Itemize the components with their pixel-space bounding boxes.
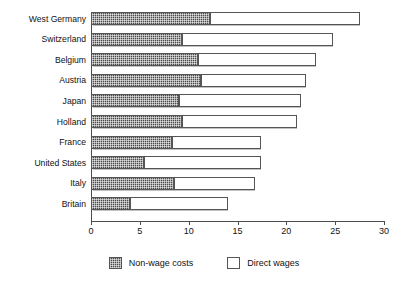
bar-segment-direct-wages xyxy=(182,33,333,46)
bar-segment-non-wage-costs xyxy=(91,136,172,149)
bar-row xyxy=(91,177,255,190)
bar-segment-non-wage-costs xyxy=(91,33,182,46)
x-axis-tick-label: 0 xyxy=(79,226,103,237)
y-axis-label: Japan xyxy=(0,96,86,106)
legend-item-direct-wages: Direct wages xyxy=(227,257,299,269)
bar-segment-non-wage-costs xyxy=(91,197,130,210)
bar-segment-direct-wages xyxy=(130,197,228,210)
bar-segment-direct-wages xyxy=(198,53,315,66)
x-axis-tick-label: 25 xyxy=(323,226,347,237)
x-axis-tick-label: 30 xyxy=(372,226,396,237)
bar-segment-non-wage-costs xyxy=(91,12,210,25)
legend-item-non-wage-costs: Non-wage costs xyxy=(109,257,194,269)
x-axis-tick xyxy=(335,221,336,225)
legend-swatch-direct-wages xyxy=(227,257,240,269)
x-axis-tick xyxy=(286,221,287,225)
bar-row xyxy=(91,94,301,107)
bar-segment-non-wage-costs xyxy=(91,177,174,190)
y-axis-label: Italy xyxy=(0,178,86,188)
bar-segment-direct-wages xyxy=(210,12,359,25)
x-axis-tick xyxy=(140,221,141,225)
y-axis-label: Belgium xyxy=(0,55,86,65)
bar-segment-non-wage-costs xyxy=(91,156,144,169)
bar-segment-direct-wages xyxy=(172,136,261,149)
y-axis-label: West Germany xyxy=(0,14,86,24)
x-axis-tick xyxy=(91,221,92,225)
bar-segment-non-wage-costs xyxy=(91,115,182,128)
bar-segment-direct-wages xyxy=(182,115,297,128)
y-axis-category-labels: West GermanySwitzerlandBelgiumAustriaJap… xyxy=(0,12,86,218)
bar-row xyxy=(91,115,297,128)
bar-segment-direct-wages xyxy=(201,74,306,87)
bar-segment-non-wage-costs xyxy=(91,94,179,107)
bar-row xyxy=(91,136,261,149)
legend-label-direct-wages: Direct wages xyxy=(247,258,299,269)
x-axis-tick xyxy=(189,221,190,225)
bar-segment-non-wage-costs xyxy=(91,74,201,87)
bar-segment-direct-wages xyxy=(174,177,255,190)
x-axis-tick-label: 15 xyxy=(226,226,250,237)
bar-row xyxy=(91,156,261,169)
bar-row xyxy=(91,74,306,87)
legend-swatch-non-wage-costs xyxy=(109,257,122,269)
bar-row xyxy=(91,12,360,25)
bar-row xyxy=(91,53,316,66)
y-axis-label: Austria xyxy=(0,75,86,85)
bar-segment-non-wage-costs xyxy=(91,53,198,66)
y-axis-label: United States xyxy=(0,158,86,168)
x-axis-tick xyxy=(384,221,385,225)
stacked-bar-chart: West GermanySwitzerlandBelgiumAustriaJap… xyxy=(0,0,408,284)
bar-row xyxy=(91,197,228,210)
bar-segment-direct-wages xyxy=(144,156,261,169)
y-axis-label: France xyxy=(0,137,86,147)
legend-label-non-wage-costs: Non-wage costs xyxy=(129,258,194,269)
chart-legend: Non-wage costs Direct wages xyxy=(0,251,408,275)
plot-area xyxy=(91,12,384,218)
x-axis-tick xyxy=(238,221,239,225)
x-axis-tick-label: 10 xyxy=(177,226,201,237)
y-axis-label: Britain xyxy=(0,199,86,209)
y-axis-label: Holland xyxy=(0,117,86,127)
bar-segment-direct-wages xyxy=(179,94,301,107)
y-axis-label: Switzerland xyxy=(0,34,86,44)
x-axis-tick-label: 20 xyxy=(274,226,298,237)
bar-row xyxy=(91,33,333,46)
x-axis-tick-label: 5 xyxy=(128,226,152,237)
